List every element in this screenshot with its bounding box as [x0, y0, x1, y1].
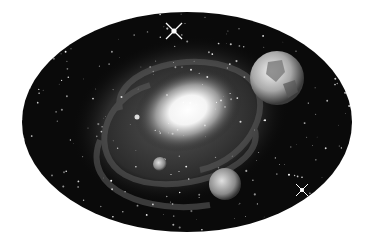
star: [204, 17, 205, 18]
star: [344, 92, 346, 94]
star: [184, 23, 185, 24]
star: [28, 79, 30, 81]
earth-like-planet: [250, 51, 304, 105]
star: [38, 93, 39, 94]
star: [312, 145, 313, 146]
star: [47, 36, 48, 37]
star: [334, 78, 336, 80]
star: [101, 131, 103, 133]
galaxy-illustration: [0, 0, 370, 243]
star: [179, 226, 181, 228]
star: [120, 96, 122, 98]
star: [166, 94, 167, 95]
small-planet: [153, 157, 167, 171]
star: [343, 74, 344, 75]
star: [199, 197, 200, 198]
star: [264, 217, 265, 218]
star: [88, 217, 90, 219]
star: [341, 208, 342, 209]
star: [168, 133, 169, 134]
star: [242, 12, 243, 13]
star: [78, 228, 79, 229]
star: [238, 28, 239, 29]
star: [73, 143, 74, 144]
star: [122, 211, 124, 213]
star: [234, 218, 235, 219]
star: [172, 133, 174, 135]
star: [308, 102, 309, 103]
star: [198, 194, 200, 196]
star: [113, 21, 115, 23]
star: [164, 26, 165, 27]
star: [295, 51, 296, 52]
star: [334, 84, 336, 86]
star: [315, 159, 316, 160]
star: [321, 188, 322, 189]
star: [43, 90, 44, 91]
star: [252, 180, 253, 181]
star: [241, 12, 242, 13]
star: [28, 86, 29, 87]
star: [215, 109, 216, 110]
star: [254, 15, 255, 16]
star: [229, 63, 231, 65]
medium-planet: [209, 168, 241, 200]
star: [185, 166, 187, 168]
star: [239, 204, 240, 205]
star: [178, 171, 179, 172]
star: [35, 184, 37, 186]
star: [113, 89, 114, 90]
star: [230, 43, 232, 45]
star: [174, 66, 176, 68]
star: [87, 128, 88, 129]
star: [279, 164, 280, 165]
star: [173, 215, 175, 217]
star: [230, 98, 232, 100]
star: [204, 124, 206, 126]
star: [76, 12, 78, 14]
star: [211, 53, 213, 55]
star: [258, 152, 259, 153]
star: [315, 114, 316, 115]
star: [239, 121, 241, 123]
tiny-moon: [135, 115, 140, 120]
star: [159, 131, 160, 132]
star: [299, 221, 300, 222]
star: [196, 104, 197, 105]
star: [245, 170, 247, 172]
star: [325, 147, 327, 149]
star: [284, 164, 285, 165]
star: [239, 203, 240, 204]
star: [183, 102, 184, 103]
star: [95, 89, 96, 90]
star: [181, 66, 182, 67]
star: [170, 174, 171, 175]
star: [147, 31, 148, 32]
star: [61, 53, 62, 54]
star: [205, 136, 206, 137]
star: [83, 79, 84, 80]
star: [38, 89, 39, 90]
star: [110, 180, 112, 182]
star: [29, 87, 31, 89]
star: [66, 61, 67, 62]
star: [45, 47, 46, 48]
star: [254, 130, 255, 131]
star: [136, 15, 137, 16]
star: [262, 35, 264, 37]
star: [96, 136, 98, 138]
star: [321, 54, 323, 56]
star: [327, 200, 329, 202]
star: [312, 40, 313, 41]
star: [223, 96, 224, 97]
star: [53, 58, 55, 60]
star: [70, 139, 71, 140]
star: [309, 193, 310, 194]
star: [341, 147, 342, 148]
star: [131, 18, 132, 19]
star: [111, 223, 112, 224]
star: [112, 216, 114, 218]
star: [190, 210, 192, 212]
star: [146, 214, 148, 216]
star: [172, 224, 174, 226]
